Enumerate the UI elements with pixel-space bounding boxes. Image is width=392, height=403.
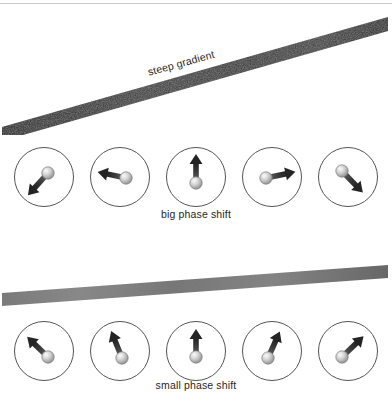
spin-cell-big-5: [314, 143, 382, 211]
spin-cell-small-3: [162, 317, 230, 385]
shallow-gradient-bar-block: shallow gradient: [0, 258, 392, 310]
top-rule: [0, 3, 392, 4]
small-phase-shift-caption: small phase shift: [0, 379, 392, 391]
spin-cell-small-4: [238, 317, 306, 385]
shallow-gradient-bar: [0, 258, 392, 310]
big-phase-shift-spin-row: [0, 143, 392, 215]
spin-cell-big-4: [238, 143, 306, 211]
spin-arrow-big-3: [162, 143, 230, 211]
spin-arrow-small-4: [238, 317, 306, 385]
phase-gradient-figure: steep gradient: [0, 0, 392, 403]
spin-cell-small-2: [86, 317, 154, 385]
spin-arrow-small-1: [10, 317, 78, 385]
spin-cell-big-1: [10, 143, 78, 211]
spin-arrow-big-5: [314, 143, 382, 211]
spin-arrow-small-3: [162, 317, 230, 385]
spin-arrow-small-2: [86, 317, 154, 385]
spin-cell-small-1: [10, 317, 78, 385]
steep-gradient-bar-block: steep gradient: [0, 10, 392, 135]
spin-cell-small-5: [314, 317, 382, 385]
spin-arrow-small-5: [314, 317, 382, 385]
big-phase-shift-caption: big phase shift: [0, 208, 392, 220]
spin-arrow-big-4: [238, 143, 306, 211]
spin-arrow-big-1: [10, 143, 78, 211]
steep-gradient-bar: [0, 10, 392, 135]
spin-arrow-big-2: [86, 143, 154, 211]
spin-cell-big-3: [162, 143, 230, 211]
spin-cell-big-2: [86, 143, 154, 211]
